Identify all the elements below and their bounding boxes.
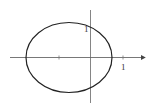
y-axis-label-one: 1 (84, 24, 89, 34)
x-axis-label-one: 1 (121, 62, 126, 72)
diagram-canvas: 1 1 (0, 0, 150, 106)
